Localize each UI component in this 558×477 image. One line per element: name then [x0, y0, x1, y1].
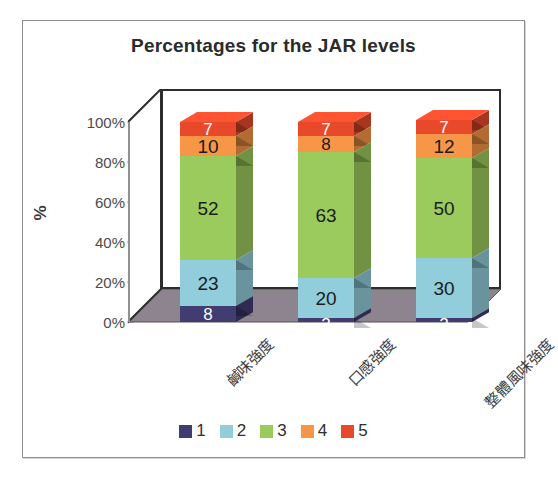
- stacked-bar: 71250302: [416, 120, 472, 322]
- chart-frame: Percentages for the JAR levels % 100%80%…: [22, 20, 525, 458]
- bar-value-label: 20: [315, 289, 336, 308]
- bar-value-label: 8: [321, 136, 330, 153]
- bar-segment[interactable]: 7: [180, 122, 236, 136]
- bar-segment[interactable]: 2: [416, 318, 472, 322]
- legend-item[interactable]: 2: [220, 421, 246, 441]
- category-label: 整體風味強度: [479, 333, 557, 411]
- y-axis-line: [128, 122, 130, 322]
- y-tick-label: 100%: [67, 114, 125, 131]
- y-axis-ticks: 100%80%60%40%20%0%: [53, 21, 125, 459]
- bar-value-label: 30: [433, 279, 454, 298]
- plot-area: 71052238786320271250302: [128, 89, 523, 329]
- bar-segment[interactable]: 52: [180, 156, 236, 260]
- legend-swatch: [220, 425, 233, 438]
- bar-value-label: 7: [439, 119, 448, 136]
- bar-value-label: 12: [433, 137, 454, 156]
- y-tick-label: 40%: [67, 234, 125, 251]
- bar-segment[interactable]: 7: [298, 122, 354, 136]
- bar-segment-side: [472, 248, 489, 318]
- legend-item[interactable]: 4: [301, 421, 327, 441]
- legend-label: 3: [277, 421, 286, 441]
- bar-segment[interactable]: 8: [298, 136, 354, 152]
- bar-segment-side: [236, 146, 253, 260]
- chart-legend: 12345: [23, 421, 524, 441]
- legend-item[interactable]: 3: [260, 421, 286, 441]
- bar-value-label: 50: [433, 199, 454, 218]
- category-label: 口感強度: [343, 333, 400, 390]
- bar-segment[interactable]: 2: [298, 318, 354, 322]
- y-tick-label: 0%: [67, 314, 125, 331]
- bar-segment[interactable]: 63: [298, 152, 354, 278]
- bar-segment[interactable]: 10: [180, 136, 236, 156]
- bar-column[interactable]: 71052238: [180, 122, 236, 322]
- category-label: 鹹味強度: [221, 333, 278, 390]
- bar-segment[interactable]: 30: [416, 258, 472, 318]
- bar-column[interactable]: 7863202: [298, 122, 354, 322]
- bar-segment[interactable]: 20: [298, 278, 354, 318]
- legend-label: 1: [196, 421, 205, 441]
- legend-label: 4: [318, 421, 327, 441]
- bar-value-label: 52: [197, 199, 218, 218]
- bar-value-label: 7: [203, 121, 212, 138]
- stacked-bar: 7863202: [298, 122, 354, 322]
- y-axis-title: %: [31, 205, 51, 220]
- bar-segment-side: [472, 148, 489, 258]
- bar-segment[interactable]: 50: [416, 158, 472, 258]
- bar-segment[interactable]: 23: [180, 260, 236, 306]
- stacked-bar: 71052238: [180, 122, 236, 322]
- bar-segment[interactable]: 8: [180, 306, 236, 322]
- bar-value-label: 2: [439, 316, 448, 333]
- bar-segment-side: [354, 142, 371, 278]
- bar-column[interactable]: 71250302: [416, 120, 472, 322]
- legend-item[interactable]: 1: [179, 421, 205, 441]
- y-tick-label: 80%: [67, 154, 125, 171]
- bar-value-label: 23: [197, 274, 218, 293]
- legend-label: 5: [358, 421, 367, 441]
- legend-label: 2: [237, 421, 246, 441]
- bar-value-label: 10: [197, 137, 218, 156]
- bar-value-label: 63: [315, 206, 336, 225]
- legend-swatch: [301, 425, 314, 438]
- bar-segment[interactable]: 12: [416, 134, 472, 158]
- legend-swatch: [260, 425, 273, 438]
- legend-swatch: [341, 425, 354, 438]
- bar-value-label: 2: [321, 316, 330, 333]
- y-tick-label: 60%: [67, 194, 125, 211]
- y-tick-label: 20%: [67, 274, 125, 291]
- bar-segment[interactable]: 7: [416, 120, 472, 134]
- bar-value-label: 8: [203, 306, 212, 323]
- legend-swatch: [179, 425, 192, 438]
- legend-item[interactable]: 5: [341, 421, 367, 441]
